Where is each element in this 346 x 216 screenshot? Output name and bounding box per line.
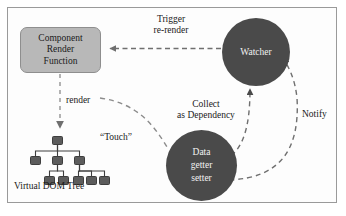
component-line-2: Render [47, 44, 74, 56]
tree-node [30, 156, 41, 165]
label-collect-line-2: as Dependency [166, 110, 246, 121]
data-line-3: setter [191, 172, 212, 185]
data-line-2: getter [191, 159, 213, 172]
diagram-canvas: Component Render Function Watcher Data g… [0, 0, 346, 216]
virtual-dom-tree-caption: Virtual DOM Tree [14, 181, 110, 192]
label-trigger-re-render: Trigger re-render [142, 14, 200, 36]
tree-node [52, 136, 63, 145]
label-render: render [66, 95, 104, 106]
data-getter-setter-node: Data getter setter [166, 130, 237, 201]
watcher-label: Watcher [240, 47, 271, 58]
component-line-1: Component [38, 33, 82, 45]
watcher-node: Watcher [222, 18, 290, 86]
component-render-function-node: Component Render Function [20, 27, 101, 73]
label-trigger-line-2: re-render [142, 25, 200, 36]
tree-node [52, 156, 63, 165]
label-touch: “Touch” [92, 132, 140, 143]
label-trigger-line-1: Trigger [142, 14, 200, 25]
label-notify: Notify [302, 109, 336, 120]
data-line-1: Data [193, 146, 211, 159]
label-collect-line-1: Collect [166, 99, 246, 110]
label-collect-as-dependency: Collect as Dependency [166, 99, 246, 121]
tree-node [74, 156, 85, 165]
component-line-3: Function [44, 56, 78, 68]
